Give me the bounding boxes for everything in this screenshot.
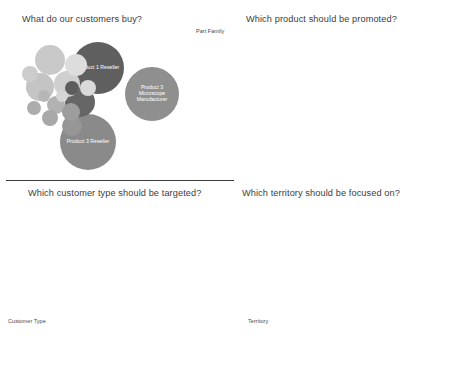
bubble-product-5	[27, 101, 41, 115]
territory-legend-title: Territory	[248, 318, 458, 324]
bubble-product-2	[22, 66, 38, 82]
part-family-legend: Part Family	[196, 28, 224, 36]
bubble-product-2	[35, 45, 65, 75]
bubble-product-5	[38, 90, 50, 102]
bubble-product-3	[62, 103, 80, 121]
sales-dashboard: What do our customers buy? Product 3 Res…	[0, 0, 461, 366]
customer-type-panel: Which customer type should be targeted? …	[0, 178, 240, 366]
product-promoted-title: Which product should be promoted?	[246, 14, 397, 24]
customer-type-chart	[0, 198, 240, 318]
bubble-plot-area: Product 3 ResellerProduct 3 Microscope M…	[10, 30, 190, 170]
bubble-chart-panel: What do our customers buy? Product 3 Res…	[0, 0, 240, 178]
customer-type-title: Which customer type should be targeted?	[28, 188, 201, 198]
bubble-label: Product 3 Microscope Manufacturer	[125, 85, 179, 103]
customer-type-legend: Customer Type	[8, 318, 236, 326]
territory-panel: Which territory should be focused on? Te…	[238, 178, 461, 366]
territory-title: Which territory should be focused on?	[242, 188, 400, 198]
bubble-product-4	[56, 90, 68, 102]
customer-type-legend-title: Customer Type	[8, 318, 236, 324]
territory-chart	[238, 198, 461, 318]
bubble-product-4	[80, 80, 96, 96]
product-promoted-chart	[238, 24, 461, 174]
territory-legend: Territory	[248, 318, 458, 326]
bubble-chart-title: What do our customers buy?	[22, 14, 142, 24]
bubble-product-4	[65, 54, 87, 76]
bubble-product-3: Product 3 Microscope Manufacturer	[125, 67, 179, 121]
part-family-legend-title: Part Family	[196, 28, 224, 34]
panel-divider	[6, 180, 234, 181]
bubble-product-5	[42, 110, 58, 126]
product-promoted-panel: Which product should be promoted?	[238, 0, 461, 178]
bubble-label: Product 3 Reseller	[65, 139, 112, 145]
